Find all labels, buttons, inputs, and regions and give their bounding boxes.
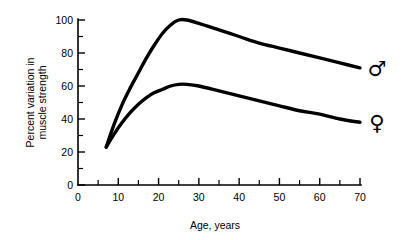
mars-symbol: ♂ [368, 57, 387, 81]
x-axis-major-ticks [118, 178, 360, 185]
series-layer [106, 19, 360, 147]
x-tick-label: 60 [314, 191, 326, 203]
y-tick-label: 0 [67, 179, 73, 191]
y-axis-tick-labels: 020406080100 [55, 14, 73, 191]
y-tick-label: 60 [61, 80, 73, 92]
x-tick-label: 10 [112, 191, 124, 203]
y-tick-label: 100 [55, 14, 73, 26]
y-tick-label: 80 [61, 47, 73, 59]
x-tick-label: 30 [193, 191, 205, 203]
x-tick-label: 70 [354, 191, 366, 203]
y-axis-label-line2: muscle strength [36, 65, 48, 139]
y-tick-label: 20 [61, 146, 73, 158]
series-line-male [106, 19, 360, 147]
x-tick-label: 20 [153, 191, 165, 203]
x-tick-label: 40 [233, 191, 245, 203]
series-end-markers: ♂♀ [368, 57, 387, 135]
chart-figure: 020406080100 010203040506070 ♂♀ Percent … [0, 0, 401, 240]
series-line-female [106, 84, 360, 147]
x-axis-label: Age, years [190, 219, 240, 231]
venus-symbol: ♀ [369, 111, 384, 135]
x-tick-label: 50 [274, 191, 286, 203]
y-axis-label-line1: Percent variation in [24, 57, 36, 147]
x-axis-tick-labels: 010203040506070 [75, 191, 366, 203]
y-tick-label: 40 [61, 113, 73, 125]
muscle-strength-line-chart: 020406080100 010203040506070 ♂♀ Percent … [0, 0, 401, 240]
x-tick-label: 0 [75, 191, 81, 203]
